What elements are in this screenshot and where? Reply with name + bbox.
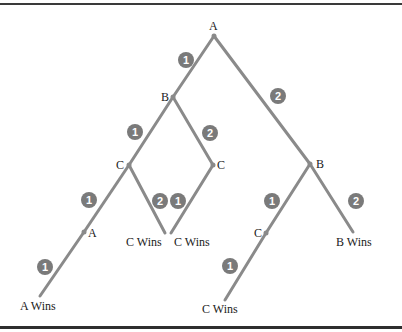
edge-b2-leaf5 xyxy=(310,164,353,232)
badge-text: 1 xyxy=(269,195,275,207)
badge-text: 2 xyxy=(157,195,163,207)
leaf-label-c-wins: C Wins xyxy=(202,303,238,315)
node-dot-root xyxy=(212,34,217,39)
node-label-root: A xyxy=(209,20,218,32)
badge-text: 2 xyxy=(353,195,359,207)
node-label-b1: B xyxy=(161,91,169,103)
badge-text: 2 xyxy=(207,127,213,139)
badge-text: 1 xyxy=(175,195,181,207)
badge-text: 1 xyxy=(42,261,48,273)
node-dot-b1 xyxy=(171,95,176,100)
leaf-label-a-wins: A Wins xyxy=(20,300,56,312)
leaf-label-c-wins: C Wins xyxy=(126,236,162,248)
leaf-label-c-wins: C Wins xyxy=(174,236,210,248)
badge-text: 1 xyxy=(132,126,138,138)
badge-text: 1 xyxy=(183,54,189,66)
node-dot-c2 xyxy=(211,163,216,168)
badge-text: 2 xyxy=(275,90,281,102)
node-dot-a2 xyxy=(82,230,87,235)
node-label-c2: C xyxy=(217,159,225,171)
node-label-b2: B xyxy=(316,158,324,170)
edge-root-b1 xyxy=(173,36,214,97)
leaf-label-b-wins: B Wins xyxy=(336,236,372,248)
tree-edges: 1 2 1 2 1 2 1 1 1 2 1 xyxy=(0,0,402,332)
edge-root-b2 xyxy=(214,36,310,164)
node-dot-c3 xyxy=(264,231,269,236)
node-dot-c1 xyxy=(127,163,132,168)
badge-text: 1 xyxy=(227,260,233,272)
node-label-a2: A xyxy=(88,227,97,239)
node-dot-b2 xyxy=(308,162,313,167)
diagram-frame: 1 2 1 2 1 2 1 1 1 2 1 A B B C C A C A Wi… xyxy=(0,0,402,332)
node-label-c1: C xyxy=(116,159,124,171)
node-label-c3: C xyxy=(254,227,262,239)
badge-text: 1 xyxy=(86,194,92,206)
